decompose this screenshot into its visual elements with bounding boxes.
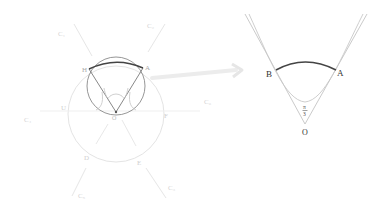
label-a: A bbox=[145, 64, 150, 72]
label-h: H bbox=[82, 66, 87, 74]
label-f: F bbox=[164, 112, 168, 120]
label-u: U bbox=[61, 104, 66, 112]
arc-ba bbox=[276, 62, 336, 70]
inner-cusp-curve bbox=[104, 88, 128, 98]
label-a-right: A bbox=[337, 68, 344, 78]
zoom-arrow bbox=[152, 64, 242, 78]
diagram-canvas: H A O U F D E C₁ C₂ C₄ C₆ C₅ C₃ B A O π … bbox=[0, 0, 390, 211]
label-c2: C₂ bbox=[147, 22, 155, 30]
left-figure: H A O U F D E C₁ C₂ C₄ C₆ C₅ C₃ bbox=[24, 22, 212, 200]
label-c5: C₅ bbox=[78, 192, 86, 200]
label-c4: C₄ bbox=[24, 116, 32, 124]
point-o bbox=[115, 111, 117, 113]
label-c6: C₆ bbox=[204, 98, 212, 106]
large-circle bbox=[68, 66, 164, 162]
line-a-o bbox=[116, 68, 143, 112]
angle-denominator: 3 bbox=[303, 111, 306, 117]
label-e: E bbox=[137, 159, 141, 167]
ray-c3 bbox=[146, 168, 166, 198]
angle-numerator: π bbox=[303, 104, 306, 110]
label-c1: C₁ bbox=[58, 30, 65, 38]
label-o: O bbox=[112, 115, 117, 121]
inner-curve bbox=[249, 14, 363, 102]
arrow-shaft bbox=[152, 70, 236, 78]
label-d: D bbox=[84, 154, 89, 162]
ray-c1 bbox=[74, 24, 92, 56]
label-o-right: O bbox=[302, 128, 308, 137]
ray-e bbox=[122, 120, 136, 146]
right-figure: B A O π 3 bbox=[245, 14, 367, 137]
label-b: B bbox=[266, 69, 272, 79]
line-h-o bbox=[89, 69, 116, 112]
label-c3: C₃ bbox=[168, 184, 176, 192]
ray-d bbox=[96, 124, 108, 144]
